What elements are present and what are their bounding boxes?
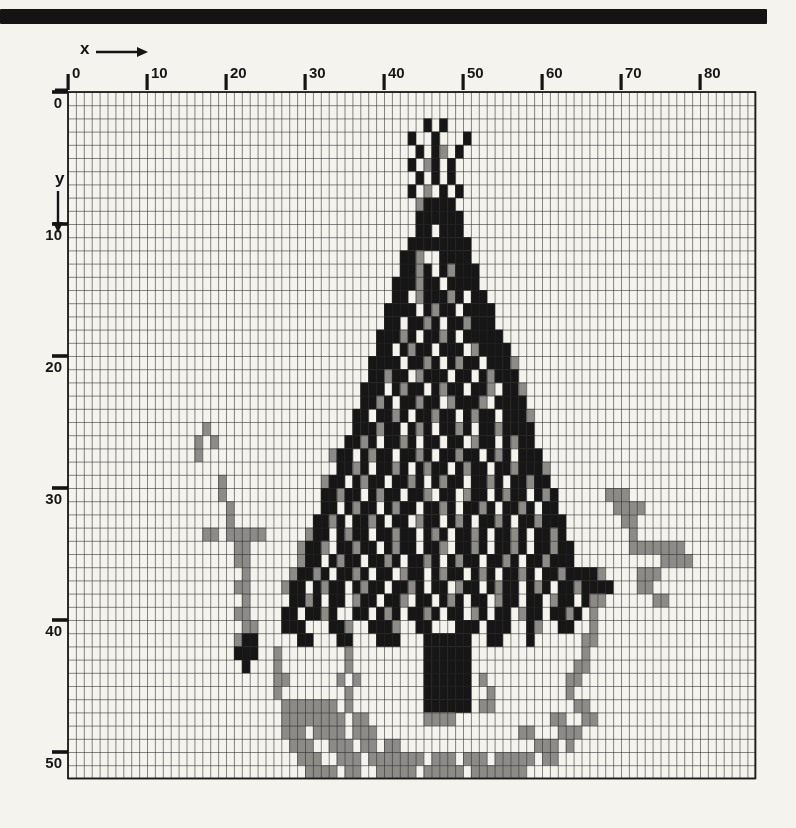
pixel-grid-canvas [0, 0, 796, 828]
y-tick-label: 30 [28, 491, 62, 506]
x-tick-label: 10 [151, 65, 168, 80]
x-tick-label: 60 [546, 65, 563, 80]
x-tick-label: 50 [467, 65, 484, 80]
x-tick-label: 70 [625, 65, 642, 80]
x-tick-label: 40 [388, 65, 405, 80]
x-tick-label: 0 [72, 65, 80, 80]
y-tick-label: 0 [28, 95, 62, 110]
x-axis-arrow-icon [96, 46, 148, 58]
y-tick-label: 50 [28, 755, 62, 770]
x-tick-label: 30 [309, 65, 326, 80]
y-axis-label: y [55, 170, 64, 187]
x-tick-label: 20 [230, 65, 247, 80]
y-tick-label: 20 [28, 359, 62, 374]
x-axis-label: x [80, 40, 89, 57]
y-tick-label: 40 [28, 623, 62, 638]
scanned-page: x y 01020304050607080 01020304050 [0, 0, 796, 828]
y-tick-label: 10 [28, 227, 62, 242]
x-tick-label: 80 [704, 65, 721, 80]
